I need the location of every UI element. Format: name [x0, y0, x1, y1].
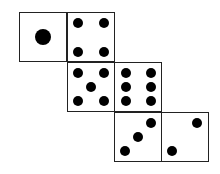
pip	[121, 82, 131, 92]
pip	[73, 18, 83, 28]
pip	[99, 47, 109, 57]
pip	[121, 96, 131, 106]
die-face-5	[67, 62, 115, 112]
pip	[167, 146, 177, 156]
pip	[120, 146, 130, 156]
pip	[73, 96, 83, 106]
pip	[192, 118, 202, 128]
die-face-4	[67, 12, 115, 62]
die-face-1	[19, 12, 67, 62]
pip	[133, 132, 143, 142]
pip	[121, 68, 131, 78]
pip	[146, 118, 156, 128]
pip	[146, 96, 156, 106]
die-face-2	[161, 112, 209, 162]
pip	[99, 68, 109, 78]
pip	[146, 68, 156, 78]
pip	[73, 47, 83, 57]
pip	[35, 29, 51, 45]
pip	[73, 68, 83, 78]
pip	[99, 96, 109, 106]
pip	[86, 82, 96, 92]
pip	[146, 82, 156, 92]
pip	[99, 18, 109, 28]
die-face-3	[114, 112, 162, 162]
die-face-6	[114, 62, 162, 112]
